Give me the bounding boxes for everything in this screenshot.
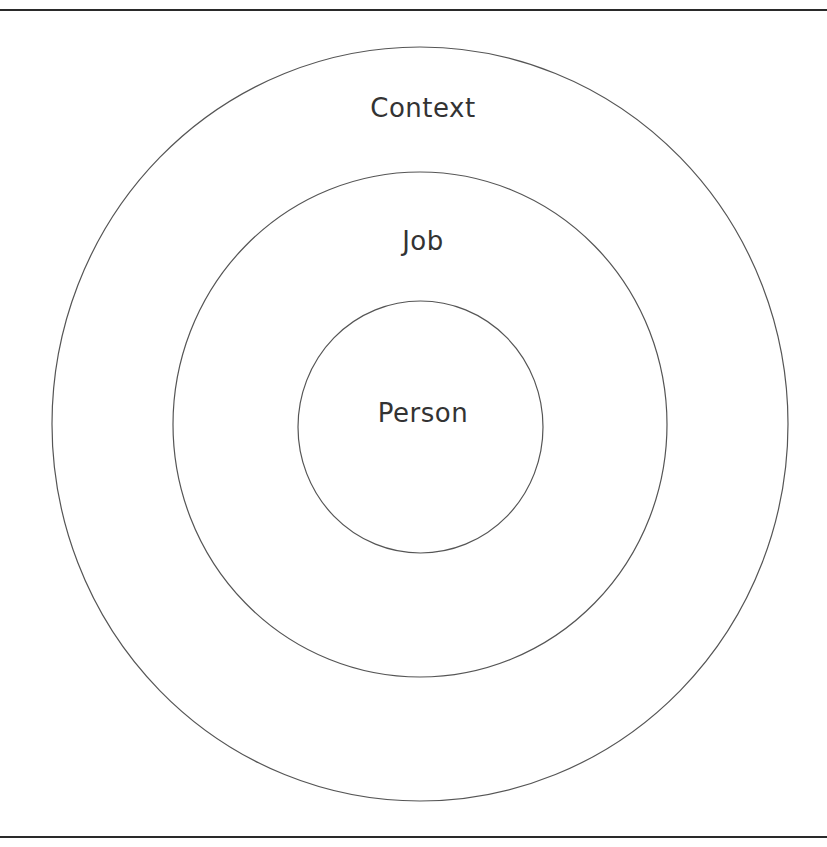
person-label: Person [0, 400, 827, 426]
bottom-rule [0, 836, 827, 838]
job-label: Job [0, 228, 827, 254]
context-label: Context [0, 95, 827, 121]
